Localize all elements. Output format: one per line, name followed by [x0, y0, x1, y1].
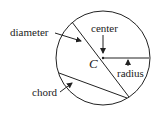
- center-point: [102, 57, 104, 59]
- center-label: center: [91, 22, 118, 34]
- diameter-label: diameter: [10, 26, 49, 38]
- diameter-arrow: [55, 33, 81, 41]
- circle-parts-diagram: diameter center C radius chord: [0, 0, 158, 115]
- chord-arrow: [60, 83, 72, 92]
- center-point-label: C: [89, 56, 98, 71]
- chord-label: chord: [32, 86, 58, 98]
- radius-label: radius: [117, 67, 144, 79]
